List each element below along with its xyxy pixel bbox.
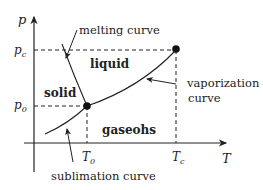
pc-label: pc [14, 43, 27, 59]
phase-diagram-svg: p T pc p0 T0 Tc liquid solid gaseohs mel… [0, 0, 263, 190]
region-solid: solid [44, 86, 77, 100]
sublimation-curve-pointer [67, 129, 73, 162]
vaporization-curve-label-2: curve [188, 91, 221, 105]
critical-point [172, 45, 180, 53]
y-axis-label: p [18, 12, 27, 27]
sublimation-curve [45, 106, 87, 134]
triple-point [83, 102, 91, 110]
p0-label: p0 [14, 98, 27, 114]
x-axis-label: T [222, 151, 232, 166]
phase-diagram: p T pc p0 T0 Tc liquid solid gaseohs mel… [0, 0, 263, 190]
melting-curve-pointer [66, 30, 77, 58]
vaporization-curve-label: vaporization [186, 76, 260, 90]
vaporization-curve-pointer [147, 79, 176, 84]
tc-label: Tc [172, 150, 185, 166]
melting-curve-label: melting curve [79, 23, 160, 37]
region-gas: gaseohs [102, 123, 156, 137]
region-liquid: liquid [90, 57, 130, 71]
sublimation-curve-label: sublimation curve [51, 169, 156, 183]
t0-label: T0 [82, 150, 95, 166]
